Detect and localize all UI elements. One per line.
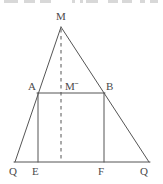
label-base-right-Q: Q: [140, 166, 148, 177]
label-rect-top-right-B: B: [106, 81, 113, 92]
label-base-left-Q: Q: [9, 166, 17, 177]
label-base-foot-right-F: F: [98, 166, 104, 177]
geometry-drawing: [0, 0, 163, 184]
label-rect-top-left-A: A: [28, 81, 36, 92]
geometry-figure: M A Mˉ B Q E F Q: [0, 0, 163, 184]
label-base-foot-left-E: E: [32, 166, 39, 177]
side-MQ-right-line: [61, 27, 149, 162]
label-center-point-M-prime: Mˉ: [65, 81, 78, 92]
label-apex-M: M: [56, 11, 66, 22]
